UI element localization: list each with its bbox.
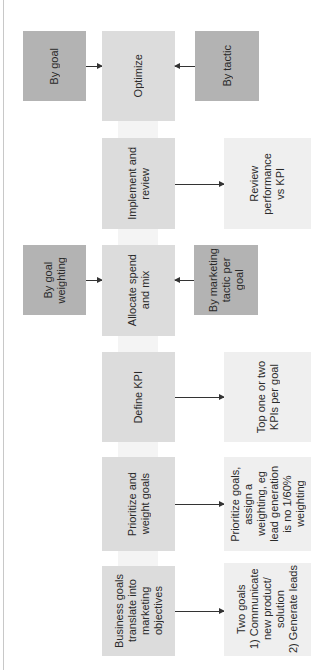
input-box-label: By goal weighting [42,257,68,303]
input-box-by-goal-weighting: By goal weighting [23,245,86,315]
arrow-right [175,184,224,185]
step-box-label: Define KPI [132,371,145,424]
input-box-label: By tactic [221,45,234,87]
output-box-two-goals: Two goals 1) Communicate new product/ so… [224,563,311,656]
step-box-implement: Implement and review [102,138,175,229]
arrow-right [175,504,224,505]
connector-strip [118,336,158,352]
input-box-by-tactic: By tactic [195,31,259,101]
input-box-by-goal: By goal [23,31,86,101]
output-box-label: Two goals 1) Communicate new product/ so… [235,565,300,653]
step-box-label: Implement and review [126,147,152,220]
step-box-label: Business goals translate into marketing … [113,574,165,648]
step-box-label: Optimize [132,54,145,97]
step-box-optimize: Optimize [102,31,175,121]
arrow-right [175,397,224,398]
connector-strip [118,121,158,138]
input-box-label: By goal [48,48,61,85]
output-box-label: Review performance vs KPI [248,153,287,215]
output-box-label: Prioritize goals, assign a weighting, eg… [229,466,307,542]
connector-strip [118,551,158,566]
arrow-left [175,66,195,67]
step-box-business-goals: Business goals translate into marketing … [102,566,175,656]
connector-strip [118,229,158,245]
output-box-top-kpis: Top one or two KPIs per goal [224,352,311,442]
arrow-right [175,611,224,612]
arrow-left [175,280,194,281]
arrow-right [86,66,102,67]
frame-border-line [3,0,4,670]
connector-strip [118,442,158,457]
step-box-define-kpi: Define KPI [102,352,175,442]
output-box-label: Top one or two KPIs per goal [255,361,281,433]
arrow-right [86,280,102,281]
step-box-allocate: Allocate spend and mix [102,245,175,336]
input-box-by-marketing-tactic: By marketing tactic per goal [194,245,258,315]
step-box-prioritize: Prioritize and weight goals [102,457,175,551]
step-box-label: Prioritize and weight goals [126,472,152,536]
input-box-label: By marketing tactic per goal [207,248,246,312]
output-box-prioritize-goals: Prioritize goals, assign a weighting, eg… [224,457,311,551]
step-box-label: Allocate spend and mix [126,254,152,326]
output-box-review-performance: Review performance vs KPI [224,138,311,229]
